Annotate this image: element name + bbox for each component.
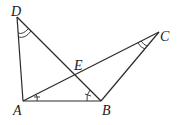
segment-BC <box>101 32 159 101</box>
segment-AD <box>17 17 23 101</box>
angle-mark-A <box>36 95 37 102</box>
label-C: C <box>160 29 170 44</box>
geometry-diagram: D A B C E <box>0 0 181 125</box>
segment-DB <box>17 17 101 101</box>
label-B: B <box>102 103 111 118</box>
label-E: E <box>73 58 83 73</box>
label-A: A <box>12 103 22 118</box>
label-D: D <box>10 4 21 19</box>
angle-mark-C <box>141 41 147 46</box>
angle-mark-D <box>18 29 28 34</box>
